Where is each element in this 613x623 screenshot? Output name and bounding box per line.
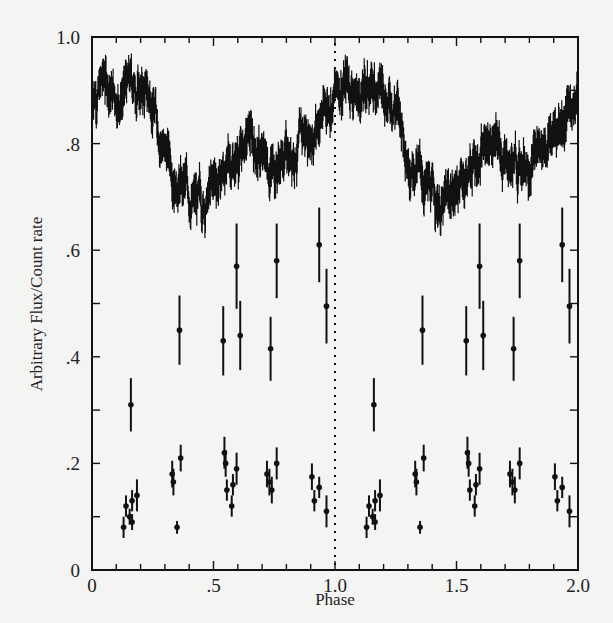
data-point-marker — [129, 519, 135, 525]
data-point-marker — [237, 333, 243, 339]
errorbar-point — [234, 453, 240, 485]
data-point-marker — [178, 455, 184, 461]
errorbar-point — [364, 517, 370, 538]
y-axis-title: Arbitrary Flux/Count rate — [27, 217, 46, 392]
data-point-marker — [467, 487, 473, 493]
errorbar-point — [420, 296, 426, 365]
y-tick-label: .8 — [66, 134, 80, 155]
data-point-marker — [466, 461, 472, 467]
light-curve-band — [92, 54, 578, 239]
data-point-marker — [121, 525, 127, 531]
errorbar-point — [511, 317, 517, 381]
errorbar-point — [128, 378, 134, 431]
data-point-marker — [316, 242, 322, 248]
errorbar-point — [312, 490, 318, 511]
data-point-marker — [472, 503, 478, 509]
errorbar-point — [472, 495, 478, 516]
data-point-marker — [421, 455, 427, 461]
data-point-marker — [480, 333, 486, 339]
errorbar-point — [473, 474, 479, 495]
errorbar-point — [417, 521, 423, 534]
data-point-marker — [420, 327, 426, 333]
errorbar-point — [555, 490, 561, 511]
errorbar-point — [324, 495, 330, 527]
errorbar-point — [177, 296, 183, 365]
phase-light-curve-chart: 0.51.01.52.0 0.2.4.6.81.0 Phase Arbitrar… — [0, 0, 613, 623]
data-point-marker — [123, 503, 129, 509]
data-point-marker — [229, 503, 235, 509]
errorbar-point — [567, 269, 573, 344]
errorbar-point — [134, 479, 140, 511]
data-point-marker — [324, 303, 330, 309]
y-axis-tick-labels: 0.2.4.6.81.0 — [56, 27, 80, 581]
y-tick-label: 1.0 — [56, 27, 80, 48]
data-point-marker — [171, 479, 177, 485]
data-point-marker — [372, 519, 378, 525]
data-point-marker — [312, 498, 318, 504]
data-point-marker — [134, 493, 140, 499]
errorbar-point — [517, 224, 523, 299]
errorbar-point — [316, 208, 322, 283]
data-point-marker — [477, 466, 483, 472]
errorbar-point — [324, 269, 330, 344]
y-tick-label: .6 — [66, 240, 80, 261]
errorbar-point — [234, 224, 240, 309]
data-point-marker — [555, 498, 561, 504]
y-tick-label: 0 — [71, 560, 81, 581]
data-point-marker — [559, 485, 565, 491]
errorbar-point — [467, 479, 473, 500]
errorbar-point — [229, 495, 235, 516]
data-point-marker — [224, 487, 230, 493]
data-point-marker — [128, 402, 134, 408]
errorbar-point — [123, 495, 129, 516]
data-point-marker — [517, 461, 523, 467]
errorbar-point — [230, 474, 236, 495]
data-point-marker — [316, 485, 322, 491]
errorbar-point — [377, 479, 383, 511]
data-point-marker — [274, 258, 280, 264]
errorbar-point — [463, 306, 469, 375]
errorbar-point — [366, 495, 372, 516]
data-point-marker — [517, 258, 523, 264]
x-tick-label: 2.0 — [566, 575, 590, 596]
data-point-marker — [567, 303, 573, 309]
data-point-marker — [269, 487, 275, 493]
errorbar-point — [480, 301, 486, 370]
x-tick-label: 0 — [87, 575, 97, 596]
errorbar-point — [372, 490, 378, 511]
data-point-marker — [372, 498, 378, 504]
errorbar-point — [371, 378, 377, 431]
errorbar-point — [224, 479, 230, 500]
data-point-marker — [234, 466, 240, 472]
errorbar-point — [309, 463, 315, 490]
data-point-marker — [417, 525, 423, 531]
count-rate-errorbar-series — [121, 208, 573, 538]
data-point-marker — [463, 338, 469, 344]
data-point-marker — [377, 493, 383, 499]
data-point-marker — [366, 503, 372, 509]
x-axis-title: Phase — [315, 590, 355, 609]
data-point-marker — [414, 479, 420, 485]
data-point-marker — [324, 509, 330, 515]
data-point-marker — [364, 525, 370, 531]
data-point-marker — [234, 263, 240, 269]
errorbar-point — [178, 445, 184, 472]
data-point-marker — [567, 509, 573, 515]
data-point-marker — [177, 327, 183, 333]
data-point-marker — [552, 474, 558, 480]
y-tick-label: .2 — [66, 453, 80, 474]
x-tick-label: 1.5 — [445, 575, 469, 596]
errorbar-point — [220, 306, 226, 375]
data-point-marker — [371, 402, 377, 408]
errorbar-point — [421, 445, 427, 472]
errorbar-point — [477, 224, 483, 309]
errorbar-point — [552, 463, 558, 490]
errorbar-point — [274, 447, 280, 479]
data-point-marker — [477, 263, 483, 269]
data-point-marker — [473, 482, 479, 488]
errorbar-point — [559, 477, 565, 498]
errorbar-point — [517, 447, 523, 479]
errorbar-point — [477, 453, 483, 485]
data-point-marker — [220, 338, 226, 344]
errorbar-point — [121, 517, 127, 538]
